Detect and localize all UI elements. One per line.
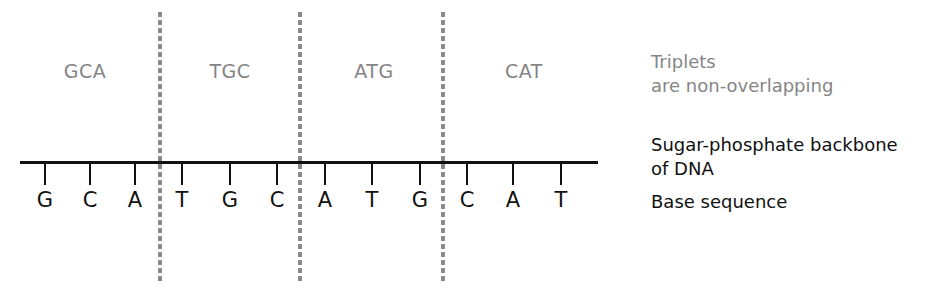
base-tick — [560, 163, 562, 185]
base-tick — [44, 163, 46, 185]
base-tick — [512, 163, 514, 185]
base-letter: T — [555, 188, 568, 212]
legend-triplets-line1: Triplets — [651, 50, 833, 74]
legend-base-sequence: Base sequence — [651, 190, 787, 214]
base-tick — [134, 163, 136, 185]
base-letter: C — [83, 188, 98, 212]
triplet-label: TGC — [209, 60, 250, 82]
base-tick — [181, 163, 183, 185]
base-letter: C — [270, 188, 285, 212]
base-tick — [89, 163, 91, 185]
dna-triplet-diagram: GCA TGC ATG CAT G C A T G C A T G C A T … — [0, 0, 926, 304]
triplet-label: CAT — [505, 60, 543, 82]
base-letter: G — [222, 188, 238, 212]
base-tick — [419, 163, 421, 185]
base-letter: A — [318, 188, 332, 212]
triplet-label: ATG — [354, 60, 393, 82]
base-tick — [229, 163, 231, 185]
base-letter: G — [37, 188, 53, 212]
base-letter: T — [176, 188, 189, 212]
triplet-divider — [298, 12, 302, 284]
base-letter: T — [366, 188, 379, 212]
base-letter: A — [128, 188, 142, 212]
triplet-divider — [441, 12, 445, 284]
base-tick — [466, 163, 468, 185]
legend-backbone-line2: of DNA — [651, 157, 898, 181]
base-letter: A — [506, 188, 520, 212]
legend-backbone: Sugar-phosphate backbone of DNA — [651, 133, 898, 181]
base-tick — [324, 163, 326, 185]
legend-backbone-line1: Sugar-phosphate backbone — [651, 133, 898, 157]
legend-triplets-line2: are non-overlapping — [651, 74, 833, 98]
base-letter: G — [412, 188, 428, 212]
base-letter: C — [460, 188, 475, 212]
triplet-label: GCA — [64, 60, 107, 82]
legend-triplets: Triplets are non-overlapping — [651, 50, 833, 98]
base-tick — [276, 163, 278, 185]
triplet-divider — [158, 12, 162, 284]
base-tick — [371, 163, 373, 185]
